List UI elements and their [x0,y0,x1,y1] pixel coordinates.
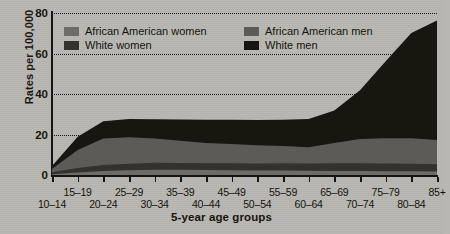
legend-item-african-american-men[interactable]: African American men [244,24,404,38]
x-tick-4 [155,177,157,182]
legend-label-white-women: White women [85,39,152,51]
x-tick-2 [103,177,105,182]
x-tick-label-12: 70–74 [337,198,383,210]
x-tick-label-0: 10–14 [29,198,75,210]
y-tick-label-80: 80 [22,8,48,18]
x-tick-label-6: 40–44 [183,198,229,210]
legend-label-african-american-men: African American men [265,25,373,37]
x-tick-0 [52,177,54,182]
legend-label-white-men: White men [265,39,318,51]
x-tick-3 [129,177,131,182]
x-tick-label-14: 80–84 [388,198,434,210]
x-tick-8 [257,177,259,182]
legend-swatch-white-women [64,41,79,50]
x-tick-15 [437,177,439,182]
x-tick-label-13: 75–79 [363,186,409,198]
x-tick-1 [78,177,80,182]
x-tick-13 [386,177,388,182]
x-tick-label-1: 15–19 [55,186,101,198]
x-tick-5 [180,177,182,182]
x-tick-10 [309,177,311,182]
legend-item-white-men[interactable]: White men [244,38,404,52]
y-tick-label-40: 40 [22,89,48,99]
legend-label-african-american-women: African American women [85,25,207,37]
x-tick-label-10: 60–64 [286,198,332,210]
x-tick-label-15: 85+ [414,186,450,198]
chart-legend: African American women White women Afric… [64,24,384,52]
gridline-80 [52,13,437,14]
legend-swatch-african-american-men [244,27,259,36]
x-tick-9 [283,177,285,182]
x-tick-label-3: 25–29 [106,186,152,198]
x-axis-line [51,175,438,177]
x-tick-label-7: 45–49 [209,186,255,198]
x-tick-label-4: 30–34 [132,198,178,210]
x-tick-12 [360,177,362,182]
y-tick-label-20: 20 [22,130,48,140]
x-tick-label-5: 35–39 [157,186,203,198]
legend-item-african-american-women[interactable]: African American women [64,24,244,38]
y-tick-label-0: 0 [22,170,48,180]
x-axis-title: 5-year age groups [0,211,443,223]
x-tick-label-11: 65–69 [311,186,357,198]
legend-swatch-african-american-women [64,27,79,36]
x-tick-6 [206,177,208,182]
y-tick-label-60: 60 [22,49,48,59]
x-tick-label-8: 50–54 [234,198,280,210]
gridline-40 [52,94,437,95]
x-tick-label-9: 55–59 [260,186,306,198]
gridline-20 [52,135,437,136]
x-tick-11 [334,177,336,182]
x-tick-label-2: 20–24 [80,198,126,210]
x-tick-14 [411,177,413,182]
legend-item-white-women[interactable]: White women [64,38,244,52]
x-tick-7 [232,177,234,182]
gridline-60 [52,54,437,55]
legend-swatch-white-men [244,41,259,50]
